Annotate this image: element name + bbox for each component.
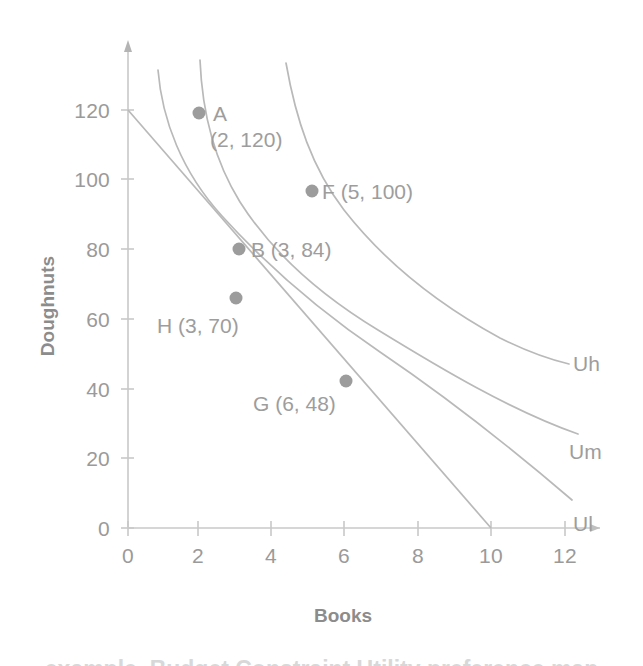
data-point-f[interactable] — [306, 185, 319, 198]
curve-label-ul: Ul — [573, 512, 593, 536]
y-tick-label-0: 0 — [48, 517, 110, 541]
cropped-caption: example. Budget Constraint Utility prefe… — [0, 658, 643, 666]
x-tick-label-12: 12 — [545, 544, 585, 568]
x-tick-label-0: 0 — [108, 544, 148, 568]
label-point-f: F (5, 100) — [322, 180, 413, 204]
data-point-h[interactable] — [230, 292, 243, 305]
data-point-b[interactable] — [233, 243, 246, 256]
x-tick-label-2: 2 — [178, 544, 218, 568]
x-axis-title: Books — [278, 605, 408, 627]
curve-label-uh: Uh — [573, 352, 600, 376]
label-point-a: A — [213, 102, 227, 126]
data-point-a[interactable] — [193, 107, 206, 120]
chart-figure: 120 100 80 60 40 20 0 0 2 4 6 8 10 12 Do… — [0, 0, 643, 666]
y-tick-label-100: 100 — [48, 168, 110, 192]
y-axis-arrowhead — [124, 40, 132, 52]
y-axis-title: Doughnuts — [37, 246, 59, 366]
y-tick-label-20: 20 — [48, 447, 110, 471]
x-tick-label-6: 6 — [324, 544, 364, 568]
data-point-g[interactable] — [340, 375, 353, 388]
x-tick-label-4: 4 — [251, 544, 291, 568]
label-point-b: B (3, 84) — [251, 238, 332, 262]
y-tick-label-40: 40 — [48, 378, 110, 402]
x-tick-label-10: 10 — [471, 544, 511, 568]
label-point-g: G (6, 48) — [253, 392, 336, 416]
curve-label-um: Um — [569, 440, 602, 464]
label-point-h: H (3, 70) — [157, 314, 239, 338]
curve-uh — [286, 63, 569, 364]
x-tick-label-8: 8 — [398, 544, 438, 568]
y-tick-label-120: 120 — [48, 99, 110, 123]
label-point-a-coords: (2, 120) — [210, 128, 282, 152]
